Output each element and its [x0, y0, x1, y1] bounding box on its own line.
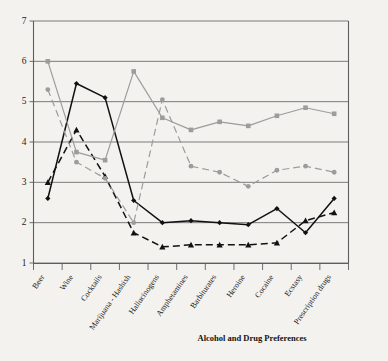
- data-point-marker: [73, 127, 79, 133]
- data-point-marker: [189, 128, 194, 133]
- line-chart: 1234567 BeerWineCocktailsMarijuana - Has…: [0, 0, 388, 361]
- data-point-marker: [246, 184, 251, 189]
- x-tick-label: Wine: [58, 273, 75, 292]
- series-line-series-black-dashed: [48, 130, 334, 247]
- x-tick-label: Ecstasy: [283, 273, 304, 298]
- data-point-marker: [131, 220, 136, 225]
- data-point-marker: [46, 59, 51, 64]
- y-tick-label: 6: [22, 56, 27, 66]
- data-point-marker: [131, 230, 137, 236]
- data-point-marker: [102, 95, 107, 100]
- y-tick-label: 2: [22, 217, 27, 227]
- data-point-marker: [217, 120, 222, 125]
- y-tick-label: 5: [22, 96, 27, 106]
- data-point-marker: [217, 220, 222, 225]
- data-point-marker: [303, 105, 308, 110]
- x-tick-label: Barbiturates: [188, 273, 218, 310]
- y-tick-labels-group: 1234567: [22, 16, 27, 268]
- data-point-marker: [74, 150, 79, 155]
- data-point-marker: [45, 87, 50, 92]
- data-point-marker: [189, 164, 194, 169]
- y-tick-label: 4: [22, 137, 27, 147]
- x-tick-label: Heroine: [225, 273, 247, 300]
- data-point-marker: [45, 196, 50, 201]
- data-point-marker: [74, 160, 79, 165]
- x-tickmarks-group: [34, 263, 349, 270]
- series-line-series-black-solid: [48, 84, 334, 233]
- x-tick-label: Cocktails: [79, 273, 104, 303]
- data-point-marker: [331, 209, 337, 215]
- data-point-marker: [160, 116, 165, 121]
- data-point-marker: [103, 158, 108, 163]
- data-point-marker: [332, 170, 337, 175]
- data-point-marker: [302, 218, 308, 224]
- series-layer: [45, 59, 338, 249]
- x-axis-title: Alcohol and Drug Preferences: [198, 333, 308, 343]
- y-tick-label: 1: [22, 258, 27, 268]
- data-point-marker: [303, 164, 308, 169]
- data-point-marker: [103, 176, 108, 181]
- x-tick-label: Cocaine: [253, 273, 276, 300]
- series-line-series-gray-solid: [48, 61, 334, 160]
- y-tick-label: 7: [22, 16, 27, 26]
- data-point-marker: [275, 113, 280, 118]
- data-point-marker: [332, 111, 337, 116]
- data-point-marker: [275, 168, 280, 173]
- chart-container: 1234567 BeerWineCocktailsMarijuana - Has…: [0, 0, 388, 361]
- data-point-marker: [74, 81, 79, 86]
- data-point-marker: [246, 124, 251, 129]
- gridlines-group: [30, 21, 349, 263]
- x-tick-label: Beer: [30, 273, 46, 291]
- data-point-marker: [160, 97, 165, 102]
- data-point-marker: [217, 170, 222, 175]
- data-point-marker: [131, 69, 136, 74]
- x-tick-labels-group: BeerWineCocktailsMarijuana - HashishHall…: [30, 273, 332, 332]
- y-tick-label: 3: [22, 177, 27, 187]
